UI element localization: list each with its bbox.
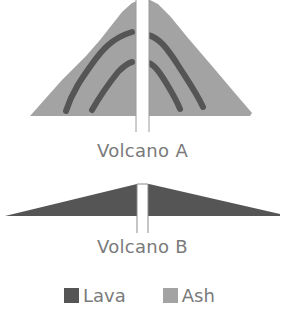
legend-item-lava: Lava: [64, 285, 126, 306]
legend-label-lava: Lava: [83, 285, 126, 306]
volcano-b-label: Volcano B: [0, 236, 285, 257]
lava-swatch-icon: [64, 288, 79, 303]
legend-item-ash: Ash: [163, 285, 215, 306]
ash-swatch-icon: [163, 288, 178, 303]
volcano-b-vent: [137, 184, 148, 233]
legend: Lava Ash: [64, 285, 215, 306]
legend-label-ash: Ash: [182, 285, 215, 306]
volcano-b-diagram: [0, 0, 300, 240]
